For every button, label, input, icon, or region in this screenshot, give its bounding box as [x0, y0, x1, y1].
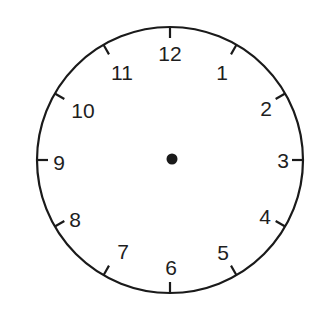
hour-number-4: 4: [259, 205, 271, 228]
hour-number-9: 9: [53, 151, 65, 174]
hour-number-5: 5: [217, 241, 229, 264]
clock-face: 121234567891011: [0, 0, 330, 311]
hour-number-11: 11: [111, 61, 133, 84]
hour-number-10: 10: [71, 99, 94, 122]
hour-number-1: 1: [216, 61, 228, 84]
hour-number-7: 7: [117, 240, 129, 263]
hour-number-2: 2: [260, 97, 272, 120]
hour-number-3: 3: [277, 149, 289, 172]
hour-number-6: 6: [165, 256, 177, 279]
hour-number-12: 12: [158, 42, 181, 65]
hour-number-8: 8: [69, 208, 81, 231]
center-pivot-dot: [167, 154, 178, 165]
